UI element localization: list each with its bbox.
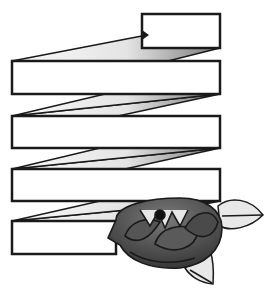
banner-2 xyxy=(12,116,220,148)
banner-bottom xyxy=(12,221,116,254)
banner-top xyxy=(142,14,220,48)
banner-3 xyxy=(12,169,220,201)
ribbon-illustration xyxy=(0,0,270,295)
rose-icon xyxy=(108,198,222,268)
banner-1 xyxy=(12,61,220,94)
